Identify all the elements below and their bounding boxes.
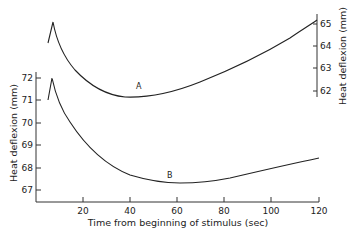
left-y-ticks [36, 78, 41, 190]
svg-text:120: 120 [310, 206, 327, 216]
svg-text:69: 69 [22, 140, 34, 150]
x-ticks [83, 197, 319, 202]
right-y-axis-label: Heat deflexion (mm) [337, 7, 348, 105]
svg-text:64: 64 [320, 41, 332, 51]
svg-text:40: 40 [124, 206, 136, 216]
left-y-tick-labels: 72 71 70 69 68 67 [22, 73, 34, 195]
curve-b [48, 78, 319, 183]
right-y-ticks [313, 24, 317, 91]
curve-a [48, 20, 317, 97]
svg-text:63: 63 [320, 63, 331, 73]
x-tick-labels: 20 40 60 80 100 120 [77, 206, 328, 216]
right-y-tick-labels: 65 64 63 62 [320, 19, 332, 96]
svg-text:80: 80 [218, 206, 230, 216]
left-y-axis-label: Heat deflexion (mm) [8, 84, 19, 182]
svg-text:100: 100 [262, 206, 279, 216]
curve-b-label: B [167, 171, 173, 180]
svg-text:60: 60 [171, 206, 183, 216]
svg-text:72: 72 [22, 73, 33, 83]
svg-text:68: 68 [22, 163, 34, 173]
x-axis-label: Time from beginning of stimulus (sec) [87, 217, 269, 228]
svg-text:20: 20 [77, 206, 89, 216]
svg-text:65: 65 [320, 19, 331, 29]
svg-text:67: 67 [22, 185, 33, 195]
svg-text:71: 71 [22, 95, 33, 105]
chart: 20 40 60 80 100 120 Time from beginning … [0, 0, 359, 232]
curve-a-label: A [136, 82, 142, 91]
svg-text:62: 62 [320, 86, 331, 96]
svg-text:70: 70 [22, 118, 34, 128]
